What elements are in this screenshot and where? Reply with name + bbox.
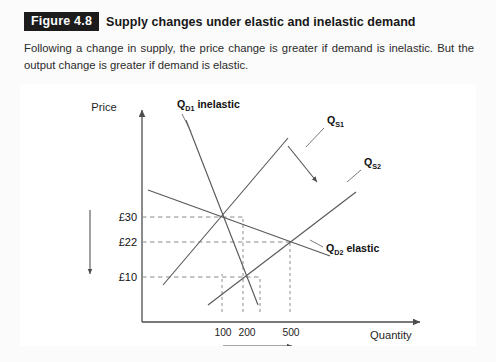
curve-label-group-d2: QD2 elastic: [310, 240, 379, 257]
curve-label-group-d1: QD1 inelastic: [177, 98, 240, 132]
leader-demand-inelastic: [182, 114, 191, 132]
label-d2-sub: D2: [334, 248, 343, 257]
label-supply-2: QS2: [364, 156, 381, 171]
y-tick-labels: £30 £22 £10: [119, 211, 137, 283]
y-tick-label-30: £30: [119, 211, 137, 223]
figure-container: Figure 4.8 Supply changes under elastic …: [0, 0, 496, 362]
label-supply-1: QS1: [327, 114, 344, 129]
label-d2-main: Q: [326, 242, 334, 254]
price-guide-lines: [142, 217, 290, 277]
label-s1-sub: S1: [335, 120, 344, 129]
label-demand-elastic: QD2 elastic: [326, 242, 379, 257]
x-tick-label-200: 200: [238, 327, 255, 338]
label-s2-main: Q: [364, 156, 372, 168]
x-tick-labels: 100 200 500: [214, 327, 299, 338]
label-s1-main: Q: [327, 114, 335, 126]
chart-curves: [148, 120, 356, 305]
x-tick-label-500: 500: [282, 327, 299, 338]
label-demand-inelastic: QD1 inelastic: [177, 98, 240, 113]
chart-axes: [142, 110, 420, 322]
figure-header: Figure 4.8 Supply changes under elastic …: [0, 0, 496, 74]
x-axis-title: Quantity: [370, 329, 412, 341]
curve-label-group-s1: QS1: [306, 114, 344, 147]
leader-supply-1: [306, 128, 324, 147]
label-d2-tail: elastic: [343, 242, 379, 254]
label-s2-sub: S2: [372, 162, 381, 171]
figure-title: Supply changes under elastic and inelast…: [106, 15, 415, 29]
label-d1-main: Q: [177, 98, 185, 110]
leader-supply-2: [347, 170, 361, 182]
x-tick-label-100: 100: [214, 327, 231, 338]
supply-demand-chart: Price Quantity: [20, 84, 476, 346]
y-axis-title: Price: [91, 101, 117, 113]
y-tick-label-22: £22: [119, 236, 137, 248]
figure-number-badge: Figure 4.8: [24, 12, 99, 31]
curve-label-group-s2: QS2: [347, 156, 381, 182]
supply-shift-arrow: [288, 146, 317, 182]
leader-demand-elastic: [310, 240, 323, 247]
curve-demand-elastic: [148, 190, 330, 256]
figure-title-row: Figure 4.8 Supply changes under elastic …: [0, 0, 496, 31]
y-tick-label-10: £10: [119, 271, 137, 283]
label-d1-sub: D1: [185, 104, 194, 113]
label-d1-tail: inelastic: [194, 98, 239, 110]
chart-panel: Price Quantity: [20, 84, 476, 346]
figure-caption: Following a change in supply, the price …: [0, 31, 496, 73]
curve-supply-1: [163, 138, 288, 285]
quantity-guide-lines: [222, 217, 290, 312]
